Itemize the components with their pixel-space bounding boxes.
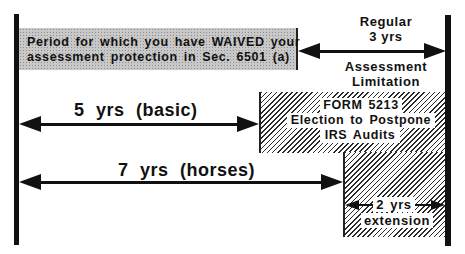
basic-arrow-line — [35, 123, 245, 126]
form-5213-irs-audits: IRS Audits — [320, 128, 400, 143]
basic-arrow-left-head — [19, 116, 41, 132]
horses-arrow-line — [35, 181, 330, 184]
assessment-label: Assessment — [324, 59, 448, 75]
form-5213-election: Election to Postpone — [287, 113, 435, 128]
regular-arrow-left-head — [298, 43, 320, 59]
regular-arrow-right-head — [424, 43, 446, 59]
waived-period-line2: assessment protection in Sec. 6501 (a) — [27, 50, 290, 65]
horses-label: 7 yrs (horses) — [118, 160, 255, 180]
waived-period-line1: Period for which you have WAIVED your — [27, 35, 300, 50]
extension-label: extension — [361, 213, 433, 228]
horses-arrow-right-head — [321, 174, 343, 190]
basic-label: 5 yrs (basic) — [74, 100, 198, 120]
extension-arrow-right-head — [431, 200, 445, 210]
basic-arrow-right-head — [237, 116, 259, 132]
form-5213-title: FORM 5213 — [320, 98, 402, 113]
extension-years-label: 2 yrs — [373, 197, 415, 212]
regular-label: Regular — [336, 14, 436, 30]
regular-years-label: 3 yrs — [336, 29, 436, 45]
horses-arrow-left-head — [19, 174, 41, 190]
extension-arrow-left-head — [345, 200, 359, 210]
limitation-label: Limitation — [324, 74, 448, 90]
regular-arrow-line — [310, 50, 436, 53]
